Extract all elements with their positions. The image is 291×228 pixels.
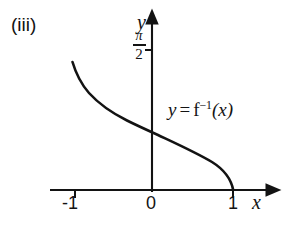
curve-equation-label: y=f−1(x)	[168, 100, 233, 119]
part-label: (iii)	[11, 15, 36, 34]
pi-denominator: 2	[128, 46, 150, 62]
x-tick-label-zero: 0	[146, 194, 156, 212]
x-tick-label-neg-one: -1	[62, 194, 78, 212]
y-tick-label-pi-over-2: π 2	[128, 29, 150, 62]
equation-exponent: −1	[199, 99, 212, 112]
equation-equals: =	[176, 99, 193, 120]
x-tick-label-one: 1	[228, 194, 238, 212]
pi-numerator: π	[128, 29, 150, 44]
x-axis-label: x	[252, 192, 261, 212]
figure-container: (iii) y x π 2 -1 0 1 y=f−1(x)	[0, 0, 291, 228]
equation-argument: (x)	[212, 99, 233, 120]
